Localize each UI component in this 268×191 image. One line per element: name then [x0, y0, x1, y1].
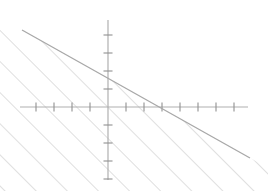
hatch-fill — [0, 0, 268, 191]
shaded-region-below-line — [0, 0, 268, 191]
coordinate-plane-graph — [0, 0, 268, 191]
graph-canvas — [0, 0, 268, 191]
